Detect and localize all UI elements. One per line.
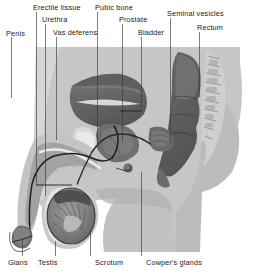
anatomy-figure: PenisErectile tissueUrethraVas deferensP… [0, 0, 256, 279]
label-bladder: Bladder [138, 29, 164, 37]
label-scrotum: Scrotum [95, 259, 123, 267]
anatomy-illustration [0, 0, 256, 279]
bladder-organ [70, 74, 147, 128]
label-testis: Testis [38, 259, 58, 267]
label-pubic-bone: Pubic bone [95, 4, 133, 12]
label-prostate: Prostate [119, 16, 147, 24]
label-penis: Penis [6, 30, 25, 38]
label-erectile-tissue: Erectile tissue [33, 4, 81, 12]
label-vas-deferens: Vas deferens [53, 29, 97, 37]
label-cowpers-glands: Cowper's glands [146, 259, 202, 267]
testis-organ [47, 188, 95, 244]
label-urethra: Urethra [42, 16, 67, 24]
label-glans: Glans [8, 259, 28, 267]
label-rectum: Rectum [197, 24, 223, 32]
label-seminal-vesicles: Seminal vesicles [167, 10, 224, 18]
